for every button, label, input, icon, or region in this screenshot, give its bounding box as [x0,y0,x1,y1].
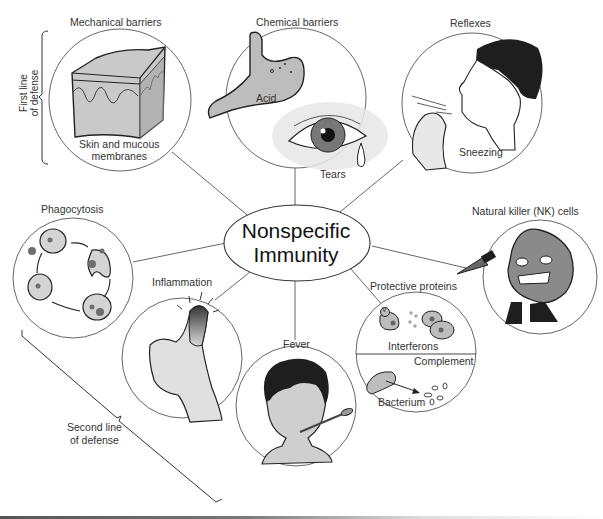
inflammation-title: Inflammation [152,276,212,288]
nk-cells-title: Natural killer (NK) cells [472,205,579,217]
chemical-barriers-illustration [208,28,388,170]
reflexes-title: Reflexes [450,17,491,29]
phagocytosis-illustration [13,218,133,338]
phagocytosis-title: Phagocytosis [41,203,103,215]
first-line-bracket [39,31,48,164]
interferons-label: Interferons [388,340,438,352]
acid-label: Acid [256,92,276,104]
inflammation-illustration [122,292,242,422]
caption-line1: Skin and mucous [79,138,160,150]
second-line-label-line1: Second line [67,421,122,434]
protective-proteins-title: Protective proteins [370,280,457,292]
sneezing-label: Sneezing [459,146,503,158]
tears-label: Tears [320,168,346,180]
center-title-line1: Nonspecific [228,219,364,243]
mechanical-barriers-title: Mechanical barriers [70,16,162,28]
nk-cell-illustration [457,220,597,334]
bacterium-label: Bacterium [378,396,425,408]
mechanical-barriers-caption: Skin and mucous membranes [79,138,160,162]
fever-illustration [236,346,356,466]
center-title-line2: Immunity [228,243,364,267]
chemical-barriers-title: Chemical barriers [256,16,338,28]
caption-line2: membranes [79,150,160,162]
virus-mark: V [382,306,387,313]
first-line-label: First line of defense [18,63,40,123]
second-line-label-line2: of defense [67,434,122,447]
protective-proteins-illustration [356,292,476,412]
first-line-label-line2: of defense [29,63,40,123]
fever-title: Fever [283,338,310,350]
complement-label: Complement [414,355,474,367]
second-line-label: Second line of defense [67,421,122,447]
center-title: Nonspecific Immunity [228,219,364,267]
first-line-label-line1: First line [18,63,29,123]
